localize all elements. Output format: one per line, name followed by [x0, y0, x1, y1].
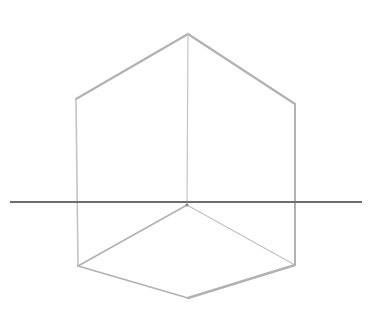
edge-center-right [187, 205, 295, 265]
edge-bottom-right [188, 265, 295, 298]
edge-center-vertical [187, 34, 188, 205]
center-vertex [185, 203, 188, 206]
edge-top-left [76, 34, 188, 99]
edge-bottom-left [78, 266, 188, 298]
edge-top-right [188, 34, 295, 104]
edge-left-vertical [76, 99, 78, 266]
edge-center-left [78, 205, 187, 266]
cube-sketch-canvas [0, 0, 392, 330]
